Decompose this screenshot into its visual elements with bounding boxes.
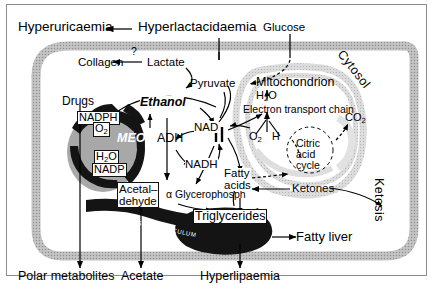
- label-fatty-acids: Fatty acids: [224, 168, 251, 191]
- label-acetaldehyde-line1: Acetal–: [119, 183, 157, 195]
- label-drugs: Drugs: [62, 95, 94, 108]
- label-ketones: Ketones: [292, 182, 334, 194]
- label-adh: ADH: [157, 132, 183, 145]
- label-unknown-step: ?: [131, 46, 137, 57]
- label-lactate: Lactate: [147, 56, 185, 68]
- label-citric-acid-cycle-line3: cycle: [296, 160, 320, 171]
- label-ketosis: Ketosis: [372, 178, 385, 222]
- label-fatty-acids-line2: acids: [224, 180, 251, 192]
- label-pyruvate: Pyruvate: [190, 77, 235, 89]
- label-triglycerides: Triglycerides: [193, 209, 267, 224]
- label-electron-transport-chain: Electron transport chain: [243, 104, 354, 115]
- label-h2o-mito: H2O: [256, 90, 277, 103]
- label-collagen: Collagen: [78, 56, 123, 68]
- label-fatty-acids-line1: Fatty: [224, 168, 251, 180]
- label-hyperlactacidaemia: Hyperlactacidaemia: [138, 20, 257, 34]
- label-h-mito: H: [272, 131, 280, 142]
- label-mitochondrion: Mitochondrion: [256, 76, 335, 89]
- label-hyperuricaemia: Hyperuricaemia: [18, 20, 113, 34]
- label-hyperlipaemia: Hyperlipaemia: [200, 270, 280, 283]
- label-acetaldehyde-line2: dehyde: [119, 195, 157, 207]
- label-citric-acid-cycle: Citric acid cycle: [296, 138, 320, 171]
- label-fatty-liver: Fatty liver: [296, 230, 352, 244]
- label-polar-metabolites: Polar metabolites: [18, 270, 115, 283]
- figure-canvas: Hyperuricaemia Hyperlactacidaemia Glucos…: [0, 0, 434, 297]
- label-o2-mito: O2: [249, 131, 262, 144]
- label-glucose: Glucose: [263, 21, 305, 33]
- label-nadp: NADP: [92, 163, 127, 177]
- label-nadh: NADH: [185, 158, 218, 170]
- label-acetaldehyde: Acetal– dehyde: [117, 182, 159, 208]
- label-co2-mito: CO2: [345, 112, 366, 125]
- label-ethanol: Ethanol: [140, 96, 186, 109]
- label-acetate: Acetate: [121, 270, 163, 283]
- label-nad: NAD: [194, 121, 218, 133]
- diagram-vector-layer: [0, 0, 434, 297]
- label-o2-meos: O2: [93, 122, 110, 137]
- label-meos: MEOS: [117, 132, 154, 145]
